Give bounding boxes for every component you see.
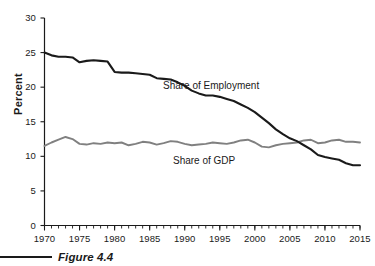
x-tick-label: 1990 xyxy=(168,233,202,244)
y-tick-label: 0 xyxy=(14,220,36,231)
caption-rule xyxy=(0,256,52,258)
y-tick-label: 20 xyxy=(14,81,36,92)
series-label-share-of-employment: Share of Employment xyxy=(163,80,259,91)
y-tick-label: 25 xyxy=(14,47,36,58)
figure-container: Percent 051015202530 1970197519801985199… xyxy=(0,0,375,266)
x-tick-label: 1970 xyxy=(28,233,62,244)
x-tick-label: 1975 xyxy=(63,233,97,244)
series-line-share-of-employment xyxy=(45,53,361,166)
y-tick-label: 10 xyxy=(14,150,36,161)
x-tick-label: 1980 xyxy=(98,233,132,244)
series-line-share-of-gdp xyxy=(45,137,361,147)
line-chart-plot xyxy=(0,0,375,266)
x-axis-major-ticks xyxy=(45,226,361,231)
x-tick-label: 2015 xyxy=(343,233,375,244)
x-tick-label: 2010 xyxy=(308,233,342,244)
series-label-share-of-gdp: Share of GDP xyxy=(173,155,235,166)
y-tick-label: 15 xyxy=(14,116,36,127)
figure-caption: Figure 4.4 xyxy=(0,247,375,266)
x-tick-label: 1985 xyxy=(133,233,167,244)
y-tick-label: 5 xyxy=(14,185,36,196)
x-tick-label: 2005 xyxy=(273,233,307,244)
x-tick-label: 1995 xyxy=(203,233,237,244)
caption-text: Figure 4.4 xyxy=(58,251,113,263)
x-tick-label: 2000 xyxy=(238,233,272,244)
y-tick-label: 30 xyxy=(14,12,36,23)
